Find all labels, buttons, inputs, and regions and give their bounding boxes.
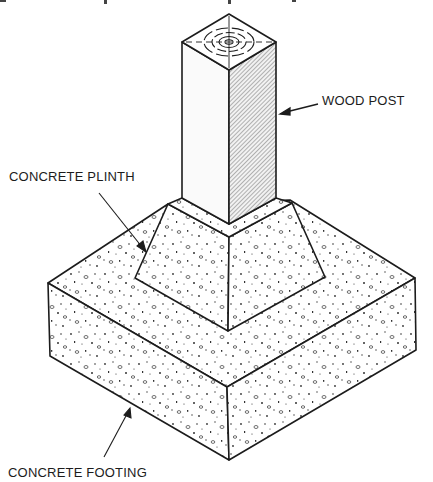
arrowhead-icon [280,108,290,115]
post-left-face [182,42,229,224]
label-concrete-footing: CONCRETE FOOTING [8,466,147,479]
label-concrete-plinth: CONCRETE PLINTH [9,170,135,183]
leader-wood-post [280,104,318,115]
leader-concrete-footing [104,408,131,457]
label-wood-post: WOOD POST [322,94,405,107]
wood-post [182,14,276,224]
post-right-face [229,42,276,224]
cropped-text-fragment [0,0,296,4]
post-footing-diagram [0,0,433,482]
